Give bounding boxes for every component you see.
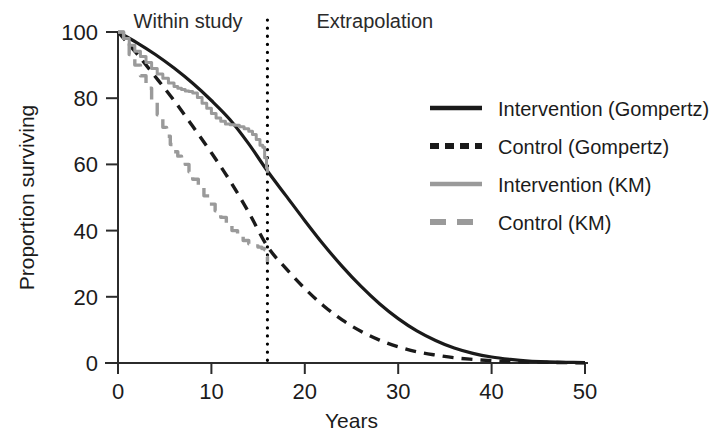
series-control_gompertz bbox=[118, 32, 585, 363]
survival-curve-figure: Within study Extrapolation 01020304050 0… bbox=[0, 0, 728, 442]
x-axis-tick-labels: 01020304050 bbox=[112, 379, 597, 404]
y-tick-label: 100 bbox=[61, 20, 98, 45]
y-tick-label: 20 bbox=[74, 285, 98, 310]
series-intervention_gompertz bbox=[118, 32, 585, 363]
y-tick-label: 0 bbox=[86, 351, 98, 376]
y-axis-tick-labels: 020406080100 bbox=[61, 20, 98, 376]
x-tick-label: 30 bbox=[386, 379, 410, 404]
series-intervention_km bbox=[118, 32, 267, 173]
x-tick-label: 50 bbox=[573, 379, 597, 404]
within-study-label: Within study bbox=[134, 10, 243, 32]
legend-label: Intervention (Gompertz) bbox=[498, 98, 709, 120]
y-axis-ticks bbox=[106, 32, 118, 363]
x-tick-label: 10 bbox=[199, 379, 223, 404]
chart-legend: Intervention (Gompertz)Control (Gompertz… bbox=[430, 98, 709, 234]
series-control_km bbox=[118, 32, 267, 262]
legend-label: Intervention (KM) bbox=[498, 174, 651, 196]
plot-canvas: Within study Extrapolation 01020304050 0… bbox=[0, 0, 728, 442]
x-axis-title: Years bbox=[325, 409, 378, 432]
x-tick-label: 0 bbox=[112, 379, 124, 404]
y-tick-label: 80 bbox=[74, 86, 98, 111]
y-tick-label: 40 bbox=[74, 219, 98, 244]
data-series bbox=[118, 32, 585, 363]
x-tick-label: 40 bbox=[479, 379, 503, 404]
x-axis-ticks bbox=[118, 363, 585, 374]
y-axis-title: Proportion surviving bbox=[15, 105, 38, 291]
legend-label: Control (KM) bbox=[498, 212, 611, 234]
extrapolation-label: Extrapolation bbox=[316, 10, 433, 32]
region-annotations: Within study Extrapolation bbox=[134, 10, 434, 32]
legend-label: Control (Gompertz) bbox=[498, 136, 669, 158]
x-tick-label: 20 bbox=[293, 379, 317, 404]
y-tick-label: 60 bbox=[74, 152, 98, 177]
